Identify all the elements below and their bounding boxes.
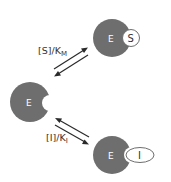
- enzyme-label: E: [26, 98, 32, 108]
- enzyme-inhibitor-complex: E I: [93, 136, 154, 174]
- inhibitor-label: I: [138, 150, 141, 161]
- free-enzyme: E: [10, 82, 50, 122]
- enzyme-substrate-complex: E S: [93, 19, 140, 57]
- enzyme-label: E: [108, 34, 114, 44]
- substrate-equilibrium-label: [S]/KM: [38, 45, 67, 58]
- inhibitor-equilibrium-label: [I]/KI: [46, 132, 68, 145]
- substrate-label: S: [128, 33, 134, 44]
- enzyme-binding-diagram: E S [S]/KM E [I]/KI E I: [0, 0, 171, 182]
- enzyme-label: E: [108, 151, 114, 161]
